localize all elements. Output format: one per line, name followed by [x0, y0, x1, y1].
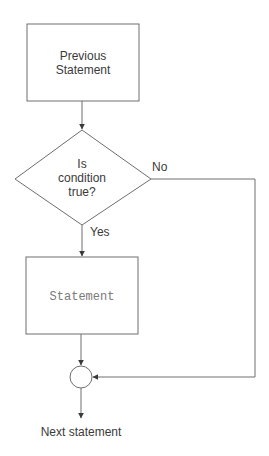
statement-label: Statement [26, 290, 138, 304]
next-statement-label: Next statement [30, 425, 132, 439]
decision-label-line3: true? [42, 185, 122, 199]
edge-label-no: No [152, 160, 167, 174]
decision-label-line1: Is [42, 157, 122, 171]
edge-decision-to-junction-no [93, 179, 255, 377]
edge-label-yes: Yes [90, 225, 110, 239]
previous-label-line2: Statement [27, 63, 139, 77]
decision-label-line2: condition [42, 171, 122, 185]
previous-statement-label: Previous Statement [27, 49, 139, 77]
decision-label: Is condition true? [42, 157, 122, 199]
junction-circle [70, 366, 92, 388]
previous-label-line1: Previous [27, 49, 139, 63]
